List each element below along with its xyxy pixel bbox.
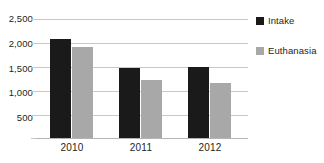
tick-stub <box>31 67 36 68</box>
legend-label: Intake <box>268 16 294 26</box>
bar-euthanasia-2010 <box>72 47 93 138</box>
y-tick-label: 500 <box>0 113 33 123</box>
y-tick-label: 2,500 <box>0 14 33 24</box>
tick-stub <box>31 115 36 116</box>
y-axis: 2,500 2,000 1,500 1,000 500 <box>0 0 33 163</box>
legend-item-euthanasia[interactable]: Euthanasia <box>256 46 317 56</box>
y-tick-label: 2,000 <box>0 39 33 49</box>
tick-stub <box>31 19 36 20</box>
bar-intake-2011 <box>119 68 140 138</box>
tick-stub <box>31 43 36 44</box>
tick-stub <box>31 138 36 139</box>
gridline-2500 <box>36 19 248 20</box>
bar-chart: 2,500 2,000 1,500 1,000 500 2010 2011 20… <box>0 0 324 163</box>
x-axis-label-2010: 2010 <box>50 142 94 154</box>
x-axis-label-2011: 2011 <box>119 142 163 154</box>
legend: Intake Euthanasia <box>256 0 324 163</box>
legend-item-intake[interactable]: Intake <box>256 16 294 26</box>
tick-stub <box>31 91 36 92</box>
bar-intake-2012 <box>188 67 209 138</box>
legend-swatch-icon <box>256 17 264 25</box>
legend-swatch-icon <box>256 47 264 55</box>
bar-euthanasia-2011 <box>141 80 162 138</box>
plot-area <box>36 0 248 163</box>
bar-euthanasia-2012 <box>210 83 231 138</box>
bar-intake-2010 <box>50 39 71 138</box>
y-tick-label: 1,000 <box>0 88 33 98</box>
legend-label: Euthanasia <box>268 46 317 56</box>
x-axis-label-2012: 2012 <box>188 142 232 154</box>
y-tick-label: 1,500 <box>0 64 33 74</box>
axis-baseline <box>36 138 248 139</box>
